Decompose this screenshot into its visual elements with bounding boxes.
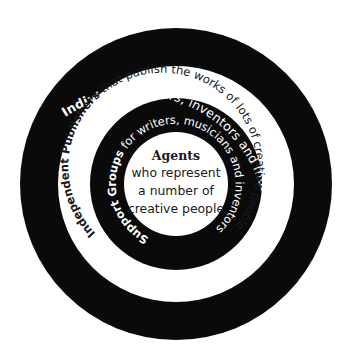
center-title: Agents [151,148,200,163]
center-line-3: creative people [128,201,224,216]
center-line-1: who represent [131,165,220,180]
center-line-2: a number of [138,183,214,198]
concentric-diagram: Individual writers, inventors and musici… [0,0,349,362]
